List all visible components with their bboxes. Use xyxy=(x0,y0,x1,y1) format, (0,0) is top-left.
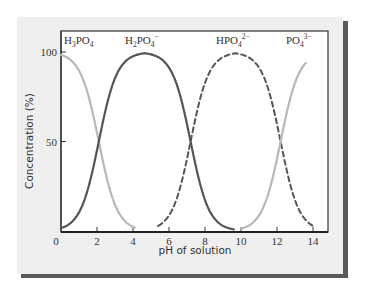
y-tick-label: 50 xyxy=(46,136,58,148)
y-tick-label: 100 xyxy=(41,46,58,58)
x-tick-label: 12 xyxy=(272,235,283,247)
x-tick-label: 4 xyxy=(130,235,136,247)
x-tick-label: 14 xyxy=(308,235,320,247)
x-tick-label: 10 xyxy=(236,235,248,247)
x-tick-label: 0 xyxy=(53,235,59,247)
x-tick-label: 2 xyxy=(94,235,100,247)
y-axis-title: Concentration (%) xyxy=(23,93,35,189)
chart-svg: 0246810121450100 H3PO4H2PO4−HPO42−PO43− … xyxy=(0,0,365,291)
x-axis-title: pH of solution xyxy=(159,244,232,256)
